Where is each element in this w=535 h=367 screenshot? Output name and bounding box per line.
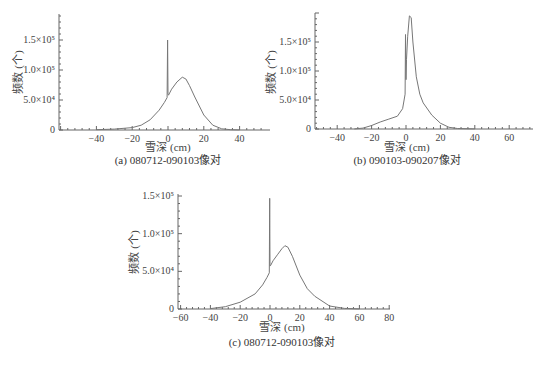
chart-b-plot: 05.0×10⁴1.0×10⁵1.5×10⁵−40−200204060 xyxy=(279,13,533,143)
x-tick-label: −20 xyxy=(124,133,140,144)
frequency-curve xyxy=(354,16,474,129)
chart-c-caption: (c) 080712-090103像对 xyxy=(229,335,336,349)
figure-canvas: 频数 (个) 雪深 (cm) (a) 080712-090103像对 05.0×… xyxy=(0,0,535,367)
x-tick-label: 40 xyxy=(235,133,245,144)
x-tick-label: −60 xyxy=(173,312,189,323)
x-tick-label: 60 xyxy=(354,312,364,323)
x-tick-label: 0 xyxy=(166,133,171,144)
chart-b: 频数 (个) 雪深 (cm) (b) 090103-090207像对 05.0×… xyxy=(264,13,533,167)
x-tick-label: 20 xyxy=(295,312,305,323)
y-tick-label: 1.5×10⁵ xyxy=(23,34,55,45)
x-tick-label: −40 xyxy=(203,312,219,323)
x-tick-label: −40 xyxy=(89,133,105,144)
chart-a-caption: (a) 080712-090103像对 xyxy=(115,153,222,167)
x-tick-label: 0 xyxy=(404,132,409,143)
x-tick-label: 0 xyxy=(268,312,273,323)
chart-b-caption: (b) 090103-090207像对 xyxy=(353,153,460,167)
x-tick-label: −20 xyxy=(232,312,248,323)
y-tick-label: 1.0×10⁵ xyxy=(142,228,174,239)
chart-c: 频数 (个) 雪深 (cm) (c) 080712-090103像对 05.0×… xyxy=(127,190,394,349)
y-tick-label: 5.0×10⁴ xyxy=(279,94,311,105)
y-tick-label: 1.5×10⁵ xyxy=(279,36,311,47)
x-tick-label: 20 xyxy=(199,133,209,144)
y-tick-label: 1.5×10⁵ xyxy=(142,190,174,201)
x-tick-label: −40 xyxy=(329,132,345,143)
x-tick-label: 40 xyxy=(470,132,480,143)
chart-c-plot: 05.0×10⁴1.0×10⁵1.5×10⁵−60−40−20020406080 xyxy=(142,190,394,323)
y-tick-label: 1.0×10⁵ xyxy=(279,65,311,76)
x-tick-label: 60 xyxy=(504,132,514,143)
chart-c-ylabel: 频数 (个) xyxy=(127,230,141,273)
y-tick-label: 5.0×10⁴ xyxy=(142,265,174,276)
chart-a-plot: 05.0×10⁴1.0×10⁵1.5×10⁵−40−2002040 xyxy=(23,14,270,144)
x-tick-label: −20 xyxy=(364,132,380,143)
y-tick-label: 0 xyxy=(50,124,55,135)
x-tick-label: 80 xyxy=(384,312,394,323)
x-tick-label: 20 xyxy=(435,132,445,143)
y-tick-label: 5.0×10⁴ xyxy=(23,94,55,105)
x-tick-label: 40 xyxy=(325,312,335,323)
chart-a: 频数 (个) 雪深 (cm) (a) 080712-090103像对 05.0×… xyxy=(11,14,270,167)
frequency-curve xyxy=(96,40,239,130)
frequency-curve xyxy=(210,198,359,309)
y-tick-label: 0 xyxy=(306,123,311,134)
y-tick-label: 1.0×10⁵ xyxy=(23,64,55,75)
chart-b-ylabel: 频数 (个) xyxy=(264,50,278,93)
